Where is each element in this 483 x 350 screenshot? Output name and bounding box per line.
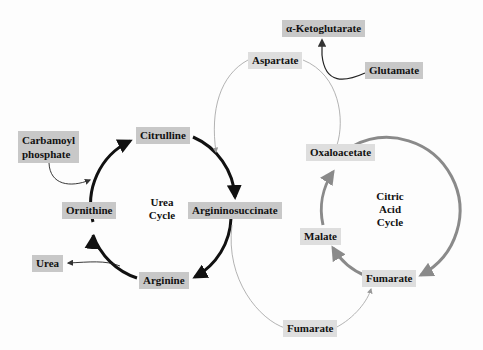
- node-oxaloacetate: Oxaloacetate: [306, 144, 375, 161]
- node-argininosuccinate: Argininosuccinate: [188, 202, 282, 219]
- aspartate-link: [214, 60, 340, 152]
- urea-cycle-label-line1: Urea: [142, 196, 182, 209]
- node-fumarate-bottom: Fumarate: [283, 320, 337, 337]
- citric-label-line3: Cycle: [368, 216, 412, 229]
- node-ornithine: Ornithine: [62, 202, 116, 219]
- pathway-arrows: [0, 0, 483, 350]
- node-arginine: Arginine: [139, 272, 189, 289]
- node-carbamoyl-phosphate: Carbamoyl phosphate: [18, 131, 79, 163]
- node-aspartate: Aspartate: [248, 52, 302, 69]
- urea-cycle-label: Urea Cycle: [142, 196, 182, 222]
- node-glutamate: Glutamate: [365, 62, 423, 79]
- glutamate-to-akg-arrow: [322, 40, 365, 79]
- node-urea: Urea: [32, 255, 63, 272]
- node-malate: Malate: [300, 228, 341, 245]
- citric-label-line1: Citric: [368, 190, 412, 203]
- carbamoyl-input-arrow: [49, 163, 90, 184]
- carbamoyl-line1: Carbamoyl: [22, 133, 75, 147]
- node-alpha-ketoglutarate: α-Ketoglutarate: [282, 20, 365, 37]
- citric-acid-cycle-label: Citric Acid Cycle: [368, 190, 412, 229]
- node-citrulline: Citrulline: [136, 127, 190, 144]
- urea-cycle-label-line2: Cycle: [142, 209, 182, 222]
- node-fumarate: Fumarate: [362, 270, 416, 287]
- citric-label-line2: Acid: [368, 203, 412, 216]
- carbamoyl-line2: phosphate: [22, 147, 75, 161]
